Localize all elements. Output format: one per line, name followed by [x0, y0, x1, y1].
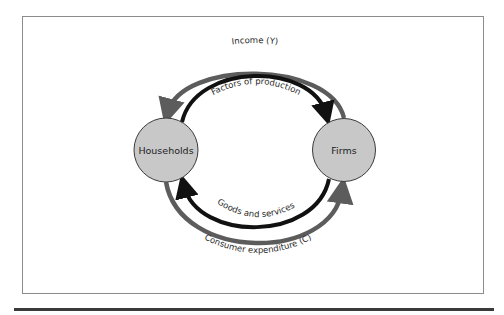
firms-label: Firms	[331, 145, 356, 156]
households-node: Households	[134, 118, 198, 182]
income-label: Income (Y)	[231, 35, 279, 46]
circular-flow-diagram: Households Firms Income (Y) Factors of p…	[0, 0, 504, 315]
firms-node: Firms	[313, 119, 376, 182]
goods-flow-arrow	[184, 179, 329, 227]
goods-label: Goods and services	[216, 196, 297, 219]
households-label: Households	[138, 145, 193, 156]
